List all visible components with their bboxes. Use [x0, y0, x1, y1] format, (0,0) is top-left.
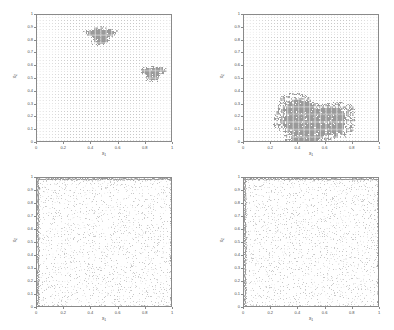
y-axis-tick-label: 0.2: [20, 114, 33, 118]
y-axis-tick: [241, 14, 243, 15]
y-axis-tick-label: 0.9: [20, 25, 33, 29]
scatter-points-layer: [37, 15, 172, 142]
x-axis-label-subscript: 1: [311, 318, 313, 322]
y-axis-label: x2: [10, 238, 20, 243]
y-axis-tick-label: 0.7: [227, 214, 240, 218]
y-axis-tick: [34, 255, 36, 256]
y-axis-tick: [241, 229, 243, 230]
x-axis-tick-label: 1: [171, 311, 173, 315]
y-axis-tick: [34, 142, 36, 143]
y-axis-tick: [34, 27, 36, 28]
y-axis-tick: [34, 177, 36, 178]
y-axis-tick-label: 0.3: [20, 102, 33, 106]
x-axis-tick-label: 0: [35, 311, 37, 315]
y-axis-tick-label: 0.2: [20, 279, 33, 283]
y-axis-tick-label: 0.6: [227, 227, 240, 231]
y-axis-tick: [241, 27, 243, 28]
y-axis-tick: [241, 91, 243, 92]
plot-frame: [243, 177, 379, 307]
y-axis-label-subscript: 2: [14, 238, 18, 240]
x-axis-tick-label: 0.4: [88, 146, 94, 150]
plot-frame: [36, 14, 172, 142]
y-axis-tick: [34, 65, 36, 66]
y-axis-tick: [241, 78, 243, 79]
x-axis-tick-label: 0.6: [115, 146, 121, 150]
y-axis-tick: [241, 65, 243, 66]
y-axis-tick-label: 0.5: [20, 240, 33, 244]
y-axis-label-subscript: 2: [221, 74, 225, 76]
x-axis-tick-label: 0.8: [349, 146, 355, 150]
y-axis-tick: [34, 294, 36, 295]
y-axis-tick-label: 0.8: [20, 38, 33, 42]
y-axis-tick-label: 0.8: [227, 201, 240, 205]
y-axis-tick-label: 0.4: [227, 253, 240, 257]
scatter-points-layer: [244, 178, 379, 307]
y-axis-tick-label: 0.1: [20, 292, 33, 296]
x-axis-tick-label: 0.2: [60, 311, 66, 315]
x-axis-tick-label: 1: [378, 311, 380, 315]
y-axis-label-text: x: [12, 76, 17, 78]
figure-canvas: 00.20.40.60.8100.10.20.30.40.50.60.70.80…: [0, 0, 394, 330]
y-axis-tick-label: 0.2: [227, 114, 240, 118]
y-axis-tick-label: 0.6: [20, 227, 33, 231]
y-axis-tick: [241, 142, 243, 143]
y-axis-tick-label: 0.2: [227, 279, 240, 283]
scatter-points-layer: [244, 15, 379, 142]
y-axis-tick-label: 0.1: [227, 292, 240, 296]
panel-top-right: 00.20.40.60.8100.10.20.30.40.50.60.70.80…: [243, 14, 379, 142]
y-axis-tick-label: 0.4: [20, 253, 33, 257]
y-axis-tick: [241, 268, 243, 269]
y-axis-tick: [241, 242, 243, 243]
y-axis-label-text: x: [12, 240, 17, 242]
y-axis-tick: [241, 190, 243, 191]
y-axis-tick: [34, 281, 36, 282]
y-axis-tick: [34, 307, 36, 308]
y-axis-tick-label: 0.1: [227, 127, 240, 131]
y-axis-tick-label: 0.6: [227, 63, 240, 67]
y-axis-tick-label: 0.9: [227, 188, 240, 192]
y-axis-tick-label: 0: [227, 305, 240, 309]
y-axis-tick-label: 0.4: [20, 89, 33, 93]
y-axis-tick: [241, 255, 243, 256]
y-axis-tick-label: 0.9: [20, 188, 33, 192]
plot-frame: [36, 177, 172, 307]
x-axis-tick-label: 0: [242, 146, 244, 150]
y-axis-tick: [34, 91, 36, 92]
y-axis-tick-label: 0.4: [227, 89, 240, 93]
y-axis-tick-label: 0: [20, 305, 33, 309]
y-axis-tick: [34, 104, 36, 105]
x-axis-label: x1: [102, 317, 106, 322]
y-axis-tick-label: 0.5: [227, 240, 240, 244]
y-axis-tick-label: 0.3: [20, 266, 33, 270]
y-axis-tick: [241, 40, 243, 41]
x-axis-tick-label: 1: [378, 146, 380, 150]
y-axis-label-text: x: [219, 240, 224, 242]
y-axis-tick-label: 0.7: [227, 50, 240, 54]
y-axis-tick: [241, 177, 243, 178]
x-axis-tick-label: 0.8: [142, 311, 148, 315]
y-axis-tick-label: 1: [227, 12, 240, 16]
x-axis-tick-label: 0.2: [267, 311, 273, 315]
x-axis-label-subscript: 1: [104, 153, 106, 157]
x-axis-tick-label: 0.6: [322, 311, 328, 315]
y-axis-tick-label: 0.3: [227, 266, 240, 270]
y-axis-tick: [241, 129, 243, 130]
y-axis-tick: [241, 104, 243, 105]
y-axis-tick: [34, 216, 36, 217]
y-axis-tick: [34, 229, 36, 230]
x-axis-label-subscript: 1: [311, 153, 313, 157]
y-axis-tick-label: 1: [20, 12, 33, 16]
y-axis-tick-label: 0.5: [227, 76, 240, 80]
y-axis-tick-label: 0: [227, 140, 240, 144]
x-axis-tick-label: 0.4: [88, 311, 94, 315]
y-axis-label-subscript: 2: [14, 74, 18, 76]
y-axis-tick: [34, 242, 36, 243]
x-axis-label: x1: [309, 152, 313, 157]
x-axis-tick-label: 0.4: [295, 146, 301, 150]
y-axis-tick-label: 0.5: [20, 76, 33, 80]
y-axis-tick-label: 0.8: [227, 38, 240, 42]
x-axis-tick-label: 0.4: [295, 311, 301, 315]
panel-top-left: 00.20.40.60.8100.10.20.30.40.50.60.70.80…: [36, 14, 172, 142]
x-axis-tick-label: 1: [171, 146, 173, 150]
y-axis-tick: [34, 203, 36, 204]
